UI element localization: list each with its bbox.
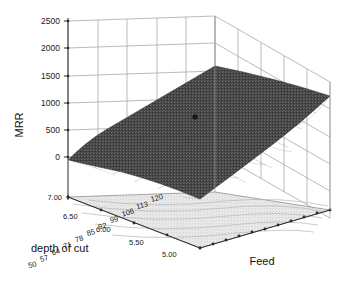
x-axis-title: Feed [249, 255, 274, 267]
x-tick-label: 85 [86, 227, 97, 238]
z-tick-label: 500 [46, 125, 60, 135]
plot-canvas: 2500 2000 1500 1000 500 0 MRR 7.00 6.50 … [0, 0, 360, 282]
z-tick-label: 2500 [41, 16, 60, 26]
z-tick-label: 0 [55, 152, 60, 162]
surface-plot-figure: 2500 2000 1500 1000 500 0 MRR 7.00 6.50 … [0, 0, 360, 282]
z-tick-label: 2000 [41, 43, 60, 53]
design-point-marker [193, 115, 198, 120]
x-tick-label: 50 [27, 259, 38, 270]
y-tick-label: 5.50 [129, 238, 144, 247]
y-tick-label: 6.50 [63, 212, 78, 221]
z-axis: 2500 2000 1500 1000 500 0 MRR [13, 16, 70, 200]
y-tick-label: 7.00 [47, 193, 62, 202]
x-tick-label: 57 [39, 253, 50, 264]
z-axis-title: MRR [13, 112, 25, 137]
response-surface [68, 66, 330, 199]
z-tick-label: 1500 [41, 71, 60, 81]
y-tick-label: 5.00 [162, 250, 177, 259]
z-tick-label: 1000 [41, 98, 60, 108]
